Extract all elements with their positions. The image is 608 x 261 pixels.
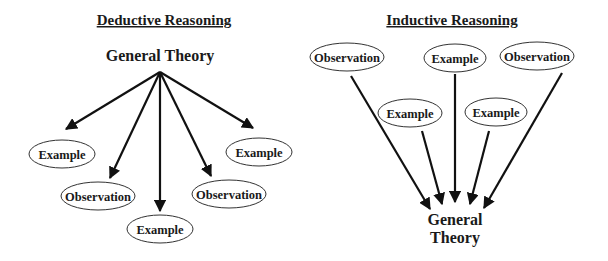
node-label: Observation [314, 51, 380, 65]
inductive-node-3: Observation [500, 42, 574, 70]
node-label: Example [235, 146, 283, 160]
deductive-node-1: Example [29, 140, 95, 168]
deductive-panel: Deductive Reasoning General Theory Examp… [29, 12, 292, 243]
arrow-from-observation-2 [484, 73, 562, 208]
node-label: Example [386, 107, 434, 121]
inductive-panel: Inductive Reasoning Observation Example … [310, 12, 574, 247]
inductive-title: Inductive Reasoning [386, 12, 518, 28]
node-label: Example [472, 106, 520, 120]
deductive-node-2: Observation [61, 182, 135, 210]
arrow-from-observation-1 [351, 76, 430, 209]
deductive-node-4: Observation [192, 180, 266, 208]
inductive-arrows [351, 73, 562, 209]
deductive-title: Deductive Reasoning [97, 12, 232, 28]
node-label: Observation [65, 190, 131, 204]
inductive-general-label: General [427, 211, 483, 228]
inductive-node-2: Example [424, 44, 486, 72]
deductive-general-theory: General Theory [106, 47, 215, 65]
deductive-node-3: Example [127, 215, 193, 243]
inductive-node-1: Observation [310, 43, 384, 71]
node-label: Observation [196, 188, 262, 202]
inductive-node-5: Example [465, 98, 527, 126]
node-label: Example [38, 148, 86, 162]
inductive-theory-label: Theory [430, 229, 480, 247]
arrow-from-example-3 [470, 131, 489, 204]
arrow-from-example-2 [422, 131, 442, 204]
node-label: Example [136, 223, 184, 237]
reasoning-diagram: Deductive Reasoning General Theory Examp… [0, 0, 608, 261]
node-label: Example [431, 52, 479, 66]
node-label: Observation [504, 50, 570, 64]
inductive-node-4: Example [378, 99, 442, 127]
deductive-node-5: Example [226, 138, 292, 166]
